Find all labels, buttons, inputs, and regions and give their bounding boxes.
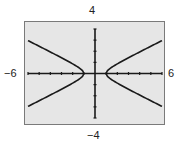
ymax-label: 4 (89, 5, 95, 16)
xmin-label: −6 (4, 68, 17, 79)
graph-screen (0, 0, 182, 147)
ymin-label: −4 (87, 130, 100, 141)
xmax-label: 6 (168, 68, 174, 79)
